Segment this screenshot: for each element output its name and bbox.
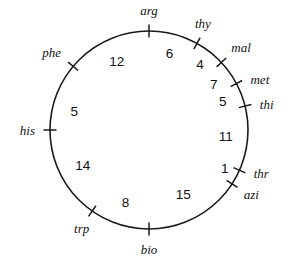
locus-label-his: his xyxy=(20,123,35,138)
distance-label-thi-thr: 11 xyxy=(219,129,233,144)
locus-label-thi: thi xyxy=(260,97,274,112)
distance-label-trp-his: 14 xyxy=(75,158,91,173)
locus-tick-trp xyxy=(88,206,95,217)
distance-label-bio-trp: 8 xyxy=(122,195,130,210)
distance-label-met-thi: 5 xyxy=(219,94,227,109)
distance-label-group: 647511115814512 xyxy=(71,46,233,210)
distance-label-thr-azi: 1 xyxy=(221,161,229,176)
locus-label-thr: thr xyxy=(254,166,270,181)
circular-genetic-map-figure: argthymalmetthithrazibiotrphisphe 647511… xyxy=(0,0,290,270)
locus-label-trp: trp xyxy=(74,221,90,236)
distance-label-phe-arg: 12 xyxy=(109,54,124,69)
locus-label-phe: phe xyxy=(41,45,61,60)
locus-label-thy: thy xyxy=(195,16,211,31)
distance-label-his-phe: 5 xyxy=(71,104,79,119)
locus-label-bio: bio xyxy=(141,242,158,257)
locus-label-arg: arg xyxy=(140,3,158,18)
locus-tick-azi xyxy=(227,180,238,187)
locus-label-met: met xyxy=(250,72,269,87)
genetic-map-canvas: argthymalmetthithrazibiotrphisphe 647511… xyxy=(0,0,290,270)
distance-label-arg-thy: 6 xyxy=(166,46,174,61)
locus-tick-met xyxy=(231,80,242,86)
distance-label-mal-met: 7 xyxy=(210,77,218,92)
locus-label-azi: azi xyxy=(244,187,260,202)
locus-label-group: argthymalmetthithrazibiotrphisphe xyxy=(20,3,274,257)
distance-label-thy-mal: 4 xyxy=(196,57,204,72)
distance-label-azi-bio: 15 xyxy=(176,187,191,202)
locus-label-mal: mal xyxy=(231,40,251,55)
locus-tick-thy xyxy=(194,38,200,49)
